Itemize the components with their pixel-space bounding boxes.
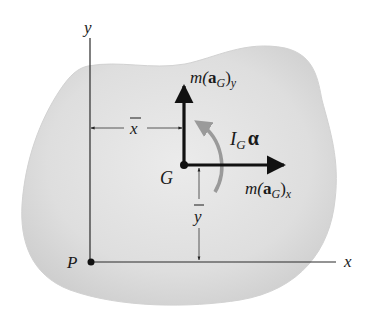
x-axis-label: x [343,252,352,271]
y-bar-label: y [192,207,202,226]
x-bar-label: x [129,119,138,138]
origin-label: P [66,253,77,272]
center-of-mass-g [180,161,188,169]
origin-point-p [88,259,95,266]
horizontal-vector-label: m(aG)x [245,179,292,201]
y-axis-label: y [82,18,92,37]
center-of-mass-label: G [160,168,173,188]
kinetic-diagram: y x P x y G m(aG)y m(aG)x IGα [0,0,378,311]
vertical-vector-label: m(aG)y [190,68,237,90]
